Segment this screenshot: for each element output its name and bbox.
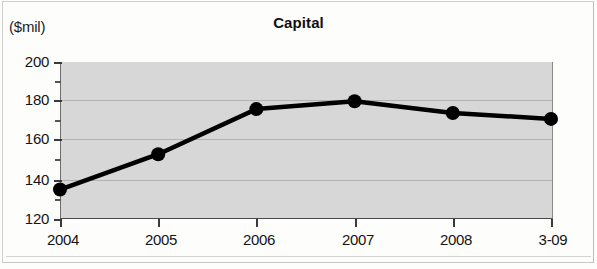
y-tick-mark-190	[55, 81, 61, 83]
page-rule	[6, 256, 591, 257]
gridline-140	[60, 180, 553, 181]
x-tick-mark-2008	[453, 219, 455, 227]
chart-figure: ($mil) Capital 200 180 160 140 120 2004 …	[0, 0, 597, 269]
x-tick-mark-2004	[60, 219, 62, 227]
x-tick-label-2005: 2005	[145, 231, 177, 248]
x-tick-label-3-09: 3-09	[539, 231, 568, 248]
y-tick-mark-180	[54, 100, 62, 102]
y-tick-label-180: 180	[0, 91, 49, 108]
chart-title: Capital	[0, 14, 597, 31]
gridline-160	[60, 139, 553, 140]
gridline-180	[60, 100, 553, 101]
y-tick-label-140: 140	[0, 171, 49, 188]
y-tick-label-120: 120	[0, 210, 49, 227]
x-tick-mark-2005	[158, 219, 160, 227]
x-tick-mark-2007	[355, 219, 357, 227]
y-tick-mark-130	[55, 199, 61, 201]
y-tick-mark-170	[55, 120, 61, 122]
y-tick-label-200: 200	[0, 53, 49, 70]
y-tick-mark-200	[54, 62, 62, 64]
plot-area	[60, 62, 553, 219]
x-tick-label-2007: 2007	[342, 231, 374, 248]
x-tick-mark-2006	[256, 219, 258, 227]
y-tick-label-160: 160	[0, 130, 49, 147]
y-tick-mark-160	[54, 139, 62, 141]
x-tick-label-2004: 2004	[47, 231, 79, 248]
y-tick-mark-150	[55, 159, 61, 161]
y-tick-mark-140	[54, 180, 62, 182]
x-tick-label-2008: 2008	[440, 231, 472, 248]
x-tick-mark-3-09	[551, 219, 553, 227]
x-tick-label-2006: 2006	[243, 231, 275, 248]
